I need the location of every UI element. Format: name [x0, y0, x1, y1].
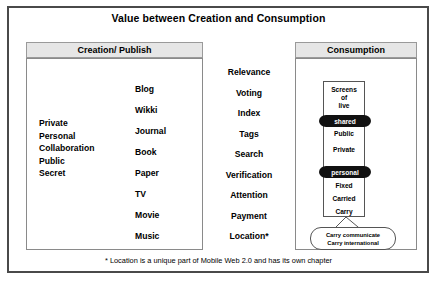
list-item: Journal — [115, 121, 195, 142]
creation-publish-body: Private Personal Collaboration Public Se… — [26, 58, 203, 250]
fixed-label: Fixed — [324, 182, 364, 189]
list-item: Payment — [203, 206, 295, 227]
public-label: Public — [324, 130, 364, 137]
creation-publish-header: Creation/ Publish — [26, 42, 203, 58]
list-item: Verification — [203, 165, 295, 186]
list-item: Private — [39, 117, 94, 130]
consumption-header: Consumption — [295, 42, 417, 58]
creation-media-list: Blog Wikki Journal Book Paper TV Movie M… — [115, 79, 195, 247]
list-item: Index — [203, 103, 295, 124]
list-item: Voting — [203, 83, 295, 104]
list-item: Paper — [115, 163, 195, 184]
list-item: Book — [115, 142, 195, 163]
screens-line-2: of — [324, 94, 364, 102]
callout-line-2: Carry international — [311, 239, 395, 247]
value-terms-column: Relevance Voting Index Tags Search Verif… — [203, 62, 295, 247]
consumption-screen-stack: Screens of live shared Public Private pe… — [323, 81, 365, 217]
creation-publish-panel: Creation/ Publish Private Personal Colla… — [26, 42, 203, 250]
list-item: Music — [115, 226, 195, 247]
screens-of-live-label: Screens of live — [324, 86, 364, 111]
footnote: * Location is a unique part of Mobile We… — [0, 256, 437, 265]
list-item: Personal — [39, 130, 94, 143]
screens-line-3: live — [324, 102, 364, 110]
private-label: Private — [324, 146, 364, 153]
carry-label: Carry — [324, 208, 364, 215]
list-item: Collaboration — [39, 142, 94, 155]
creation-attribute-list: Private Personal Collaboration Public Se… — [39, 117, 94, 180]
shared-pill: shared — [319, 115, 371, 127]
list-item: Movie — [115, 205, 195, 226]
list-item: Attention — [203, 185, 295, 206]
list-item: TV — [115, 184, 195, 205]
list-item: Blog — [115, 79, 195, 100]
list-item: Public — [39, 155, 94, 168]
callout-line-1: Carry communicate — [311, 231, 395, 239]
list-item: Relevance — [203, 62, 295, 83]
slide-canvas: Value between Creation and Consumption C… — [0, 0, 437, 282]
list-item: Location* — [203, 226, 295, 247]
list-item: Search — [203, 144, 295, 165]
list-item: Tags — [203, 124, 295, 145]
page-title: Value between Creation and Consumption — [0, 12, 437, 24]
carried-label: Carried — [324, 195, 364, 202]
list-item: Wikki — [115, 100, 195, 121]
consumption-body: Screens of live shared Public Private pe… — [295, 58, 417, 250]
list-item: Secret — [39, 167, 94, 180]
consumption-panel: Consumption Screens of live shared Publi… — [295, 42, 417, 250]
personal-pill: personal — [319, 166, 371, 178]
carry-callout: Carry communicate Carry international — [310, 227, 396, 250]
screens-line-1: Screens — [324, 86, 364, 94]
